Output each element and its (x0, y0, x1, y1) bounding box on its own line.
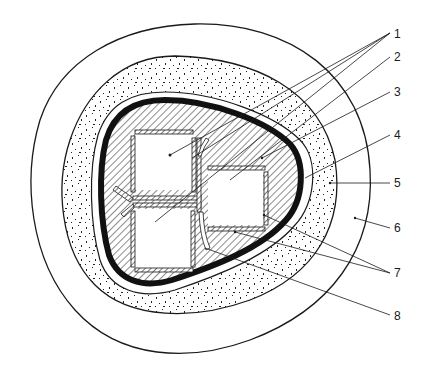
diagram-canvas: 1 2 3 4 5 6 7 8 (0, 0, 421, 390)
callout-7: 7 (394, 266, 401, 280)
right-chamber (208, 166, 268, 231)
callout-4: 4 (394, 128, 401, 142)
callout-8: 8 (394, 309, 401, 323)
callout-6: 6 (394, 221, 401, 235)
upper-left-chamber (131, 130, 196, 192)
cross-section-diagram: 1 2 3 4 5 6 7 8 (0, 0, 421, 390)
callout-3: 3 (394, 85, 401, 99)
callout-2: 2 (394, 50, 401, 64)
lower-left-chamber (131, 209, 195, 272)
callout-1: 1 (394, 27, 401, 41)
callout-5: 5 (394, 176, 401, 190)
